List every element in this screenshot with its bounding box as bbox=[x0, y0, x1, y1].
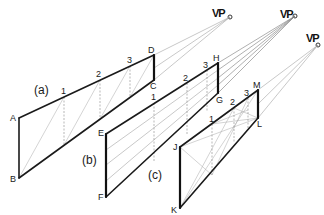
corner-label-J: J bbox=[173, 142, 178, 152]
corner-label-B: B bbox=[10, 174, 16, 184]
division-label-1: 1 bbox=[151, 92, 156, 102]
corner-label-K: K bbox=[171, 205, 177, 215]
vp-label-a: VP bbox=[212, 7, 225, 19]
projection-line bbox=[154, 17, 230, 55]
corner-label-G: G bbox=[216, 95, 223, 105]
corner-label-F: F bbox=[98, 192, 104, 202]
construction-line bbox=[180, 108, 234, 208]
projection-line bbox=[218, 16, 295, 85]
projection-line bbox=[218, 16, 295, 70]
division-label-2: 2 bbox=[96, 69, 101, 79]
division-label-2: 2 bbox=[230, 97, 235, 107]
panel-a: A B C D 1 2 3 (a) bbox=[10, 17, 230, 184]
projection-line bbox=[218, 16, 295, 63]
projection-line bbox=[218, 16, 295, 78]
projection-line bbox=[106, 78, 218, 165]
edge-KL bbox=[180, 118, 258, 208]
edge-FG bbox=[106, 93, 218, 197]
panel-c: J K L M 1 2 3 (c) bbox=[148, 45, 318, 215]
division-label-1: 1 bbox=[61, 86, 66, 96]
corner-label-M: M bbox=[253, 80, 261, 90]
panel-caption-a: (a) bbox=[34, 83, 49, 97]
construction-line bbox=[19, 97, 64, 178]
projection-line bbox=[106, 70, 218, 150]
vanishing-point-b: VP bbox=[280, 8, 297, 20]
panel-caption-c: (c) bbox=[148, 168, 162, 182]
division-label-3: 3 bbox=[127, 55, 132, 65]
diagram-canvas: VP VP VP A B C D 1 2 3 (a) bbox=[0, 0, 324, 215]
division-label-2: 2 bbox=[183, 73, 188, 83]
construction-line bbox=[180, 147, 212, 175]
corner-label-L: L bbox=[257, 119, 262, 129]
projection-line bbox=[258, 45, 318, 90]
perspective-diagram: VP VP VP A B C D 1 2 3 (a) bbox=[0, 0, 324, 215]
vp-label-c: VP bbox=[306, 32, 319, 44]
corner-label-E: E bbox=[98, 128, 104, 138]
projection-line bbox=[258, 45, 318, 118]
vanishing-point-c: VP bbox=[306, 32, 320, 47]
division-label-1: 1 bbox=[209, 114, 214, 124]
division-label-3: 3 bbox=[244, 88, 249, 98]
projection-line bbox=[258, 45, 318, 104]
corner-label-D: D bbox=[148, 45, 155, 55]
panel-caption-b: (b) bbox=[82, 153, 97, 167]
construction-line bbox=[64, 80, 100, 145]
construction-line bbox=[234, 108, 258, 118]
corner-label-A: A bbox=[10, 113, 16, 123]
corner-label-C: C bbox=[150, 81, 157, 91]
division-label-3: 3 bbox=[203, 60, 208, 70]
corner-label-H: H bbox=[213, 53, 220, 63]
